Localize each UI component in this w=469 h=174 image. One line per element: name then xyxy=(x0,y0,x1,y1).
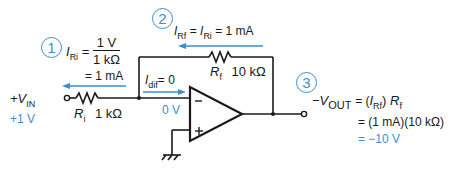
irf-subscript: Rf xyxy=(177,31,186,41)
step-1-fraction: 1 V 1 kΩ xyxy=(93,36,120,66)
step-3-eq1: = ( xyxy=(355,94,369,108)
step-1-number: 1 xyxy=(47,39,55,56)
opamp-triangle xyxy=(190,87,242,141)
rf-symbol: R xyxy=(210,64,219,79)
vin-label: +VIN xyxy=(10,92,35,105)
vin-symbol: +V xyxy=(10,91,26,106)
rf-subscript: f xyxy=(219,72,222,82)
step-2-equation: IRf = IRi = 1 mA xyxy=(174,25,254,37)
idif-subscript: dif xyxy=(148,80,158,90)
ri-symbol: R xyxy=(74,106,83,121)
step-2-result: = 1 mA xyxy=(215,24,253,38)
step-1-result: = 1 mA xyxy=(85,70,123,82)
vout-subscript: OUT xyxy=(328,99,351,111)
ri-value: 1 kΩ xyxy=(95,106,122,121)
step-2-badge: 2 xyxy=(152,8,173,29)
output-terminal xyxy=(301,111,306,116)
irf-arrow-head xyxy=(178,43,186,49)
iri-subscript: Ri xyxy=(70,52,79,62)
step-1-equation: IRi = 1 V 1 kΩ xyxy=(66,38,120,68)
step-1-numerator: 1 V xyxy=(93,36,120,51)
ri-resistor xyxy=(76,93,98,103)
rf-value: 10 kΩ xyxy=(232,64,266,79)
iri-arrow-head xyxy=(62,83,70,89)
idif-label: Idif= 0 xyxy=(145,74,175,86)
input-terminal xyxy=(64,95,69,100)
vin-subscript: IN xyxy=(26,99,35,109)
step-3-close-paren: ) xyxy=(382,93,390,108)
iri-subscript-2: Ri xyxy=(203,31,212,41)
step-1-equals: = xyxy=(82,44,90,59)
step-3-badge: 3 xyxy=(296,72,317,93)
inverting-node-voltage: 0 V xyxy=(162,104,180,116)
ri-label: Ri 1 kΩ xyxy=(74,107,122,120)
rf-subscript-3: f xyxy=(399,101,402,111)
step-2-number: 2 xyxy=(158,10,166,27)
idif-arrow-head xyxy=(178,89,186,95)
rf-resistor xyxy=(209,52,231,62)
vout-symbol: −V xyxy=(312,93,328,108)
irf-subscript-3: Rf xyxy=(373,101,382,111)
step-3-line-2: = (1 mA)(10 kΩ) xyxy=(358,116,444,128)
step-2-equals: = xyxy=(190,24,200,38)
idif-value: = 0 xyxy=(158,73,175,87)
step-3-line-1: −VOUT = (IRf) Rf xyxy=(312,94,402,107)
rf-label: Rf 10 kΩ xyxy=(210,65,266,78)
step-3-number: 3 xyxy=(302,74,310,91)
step-1-badge: 1 xyxy=(41,37,62,58)
step-3-line-3: = −10 V xyxy=(358,133,400,145)
vin-value: +1 V xyxy=(10,113,35,125)
output-junction-dot xyxy=(271,112,275,116)
step-1-denominator: 1 kΩ xyxy=(93,51,120,66)
input-junction-dot xyxy=(137,96,141,100)
